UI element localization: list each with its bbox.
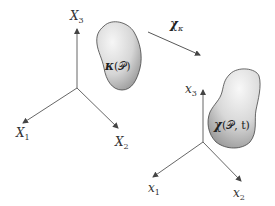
current-body-shape xyxy=(208,69,260,148)
label-X1: X1 xyxy=(15,126,30,142)
mapping-arrow: χκ xyxy=(148,17,200,55)
label-x3: x3 xyxy=(185,82,197,98)
label-X2: X2 xyxy=(114,135,129,151)
mapping-arrow-label: χκ xyxy=(169,17,184,33)
label-x2: x2 xyxy=(233,186,245,202)
axis-x1 xyxy=(153,142,203,177)
kinematics-diagram: X3 X1 X2 κ(𝒫) χκ x3 x1 x2 χ(𝒫, t) xyxy=(0,0,275,206)
axis-X2 xyxy=(77,88,118,128)
label-X3: X3 xyxy=(69,9,84,25)
reference-body-shape xyxy=(97,22,141,90)
label-x1: x1 xyxy=(148,181,160,197)
mapping-arrow-line xyxy=(148,32,200,55)
diagram-svg: X3 X1 X2 κ(𝒫) χκ x3 x1 x2 χ(𝒫, t) xyxy=(0,0,275,206)
current-body-label: χ(𝒫, t) xyxy=(213,118,250,132)
current-body: χ(𝒫, t) xyxy=(208,69,260,148)
reference-body-label: κ(𝒫) xyxy=(104,59,131,73)
axis-X1 xyxy=(23,88,77,123)
reference-body: κ(𝒫) xyxy=(97,22,141,90)
